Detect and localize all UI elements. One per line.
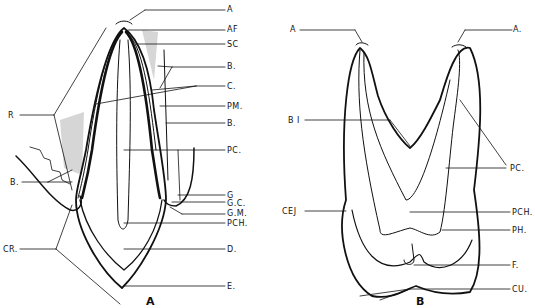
label-crown: CR. [3,245,18,254]
label-gingival-margin: G.M. [227,209,247,218]
label-dentin: D. [227,245,237,254]
label-cementum: C. [227,82,236,91]
label-root: R [8,111,14,120]
label-apex-right: A. [513,25,522,34]
label-bone-left: B. [10,178,19,187]
label-bone-lower: B. [227,119,236,128]
label-a-apex: A [227,5,233,14]
label-bifurcation: B I [288,116,300,125]
label-pulp-chamber-b: PCH. [512,208,533,217]
label-pulp-chamber: PCH. [227,219,248,228]
diagram-drawing [0,0,535,308]
label-gingival-crevice: G.C. [227,199,246,208]
label-apex-left: A [290,25,296,34]
label-secondary-cementum: SC [227,40,239,49]
label-enamel: E. [227,282,236,291]
label-periodontal-membrane: PM. [227,102,243,111]
figure-caption-a: A [146,295,155,308]
label-pulp-canal: PC. [227,146,241,155]
label-cej: CEJ [282,207,297,216]
figure-caption-b: B [416,295,424,308]
label-pulp-canal-b: PC. [510,164,524,173]
label-apical-foramen: AF [227,25,238,34]
label-pulp-horn: PH. [512,226,527,235]
label-fissure: F. [512,261,519,270]
label-cusp: CU. [512,285,527,294]
label-bone-upper: B. [227,62,236,71]
